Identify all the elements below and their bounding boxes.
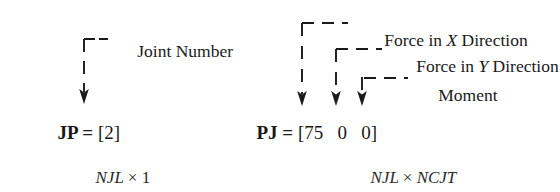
equation-jp-variable: JP [58, 122, 78, 143]
equation-pj-close-bracket: ] [371, 122, 377, 143]
equation-pj-sp4 [347, 122, 361, 143]
equation-pj-value-m: 0 [361, 122, 371, 143]
equation-jp-value: [2] [98, 122, 120, 143]
joint-load-vector-group: Force in X Direction Force in Y Directio… [215, 0, 560, 192]
multiplication-sign-icon-2: × [403, 168, 413, 187]
equation-pj-operator: = [282, 122, 293, 143]
dimensions-jp: NJL × 1 [70, 152, 150, 192]
dimensions-pj-rows: NJL [371, 168, 399, 187]
callout-force-y-suffix: Direction [488, 56, 558, 76]
joint-number-vector-group: Joint Number JP = [2] NJL × 1 [0, 0, 230, 192]
equation-pj-variable: PJ [257, 122, 278, 143]
callout-moment: Moment [412, 69, 498, 122]
joint-number-leader [78, 32, 114, 110]
callout-moment-prefix: Moment [438, 85, 497, 105]
dimensions-jp-cols: 1 [142, 168, 151, 187]
dimensions-pj: NJL × NCJT [345, 152, 456, 192]
figure-canvas: Joint Number JP = [2] NJL × 1 [0, 0, 560, 192]
equation-pj-sp3 [323, 122, 337, 143]
equation-pj-value-fy: 0 [338, 122, 348, 143]
multiplication-sign-icon: × [128, 168, 138, 187]
equation-jp-operator: = [82, 122, 93, 143]
equation-pj-value-fx: 75 [304, 122, 323, 143]
dimensions-pj-cols: NCJT [417, 168, 457, 187]
dimensions-jp-rows: NJL [96, 168, 124, 187]
